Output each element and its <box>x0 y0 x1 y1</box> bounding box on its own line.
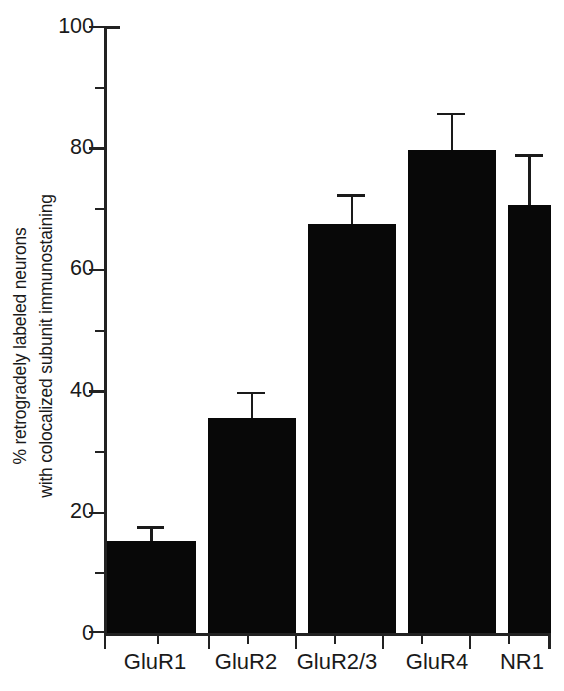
y-tick-label-20: 20 <box>34 501 94 523</box>
y-tick-label-40: 40 <box>34 380 94 402</box>
y-axis-title-line-1: % retrogradely labeled neurons <box>7 194 33 497</box>
y-tick-label-0: 0 <box>34 623 94 645</box>
x-label-nr1: NR1 <box>478 650 564 674</box>
y-tick-label-60: 60 <box>34 258 94 280</box>
y-tick-30 <box>95 451 104 453</box>
y-axis-top-cap <box>104 26 120 29</box>
y-tick-60 <box>89 269 104 271</box>
x-tick-boundary-3 <box>382 635 384 649</box>
bar-chart-figure: % retrogradely labeled neurons with colo… <box>0 0 564 691</box>
x-tick-boundary-1 <box>208 635 210 649</box>
x-label-gluR1: GluR1 <box>105 650 205 674</box>
y-tick-label-80: 80 <box>34 137 94 159</box>
y-tick-50 <box>95 330 104 332</box>
error-stem-gluR1 <box>150 528 153 541</box>
bar-gluR4 <box>408 150 496 633</box>
y-tick-100 <box>89 26 104 28</box>
x-tick-boundary-2 <box>295 635 297 649</box>
error-cap-gluR1 <box>137 526 164 529</box>
x-label-gluR2-3: GluR2/3 <box>283 650 391 674</box>
plot-area <box>104 26 551 633</box>
bar-nr1 <box>508 205 551 634</box>
x-tick-center-gluR2 <box>247 635 249 644</box>
error-cap-nr1 <box>515 154 543 157</box>
x-tick-center-gluR4 <box>421 635 423 644</box>
error-stem-gluR2 <box>251 394 254 418</box>
y-tick-0 <box>89 631 104 633</box>
x-label-gluR2: GluR2 <box>196 650 296 674</box>
x-tick-center-gluR1 <box>157 635 159 644</box>
y-tick-label-100: 100 <box>34 16 94 38</box>
y-tick-10 <box>95 572 104 574</box>
y-axis-title: % retrogradely labeled neurons with colo… <box>0 0 66 691</box>
error-stem-gluR4 <box>451 115 454 150</box>
y-axis-title-line-2: with colocalized subunit immunostaining <box>33 194 59 497</box>
y-tick-70 <box>95 208 104 210</box>
x-axis-line <box>104 633 551 636</box>
bar-gluR2 <box>208 418 296 633</box>
x-tick-boundary-0 <box>104 635 106 649</box>
error-stem-gluR2-3 <box>351 196 354 224</box>
x-tick-boundary-5 <box>548 635 550 649</box>
x-tick-center-gluR23 <box>334 635 336 644</box>
error-stem-nr1 <box>528 156 531 205</box>
x-tick-center-nr1 <box>508 635 510 644</box>
error-cap-gluR4 <box>437 113 465 116</box>
y-tick-80 <box>89 147 104 149</box>
y-tick-90 <box>95 87 104 89</box>
x-tick-boundary-4 <box>469 635 471 649</box>
x-label-gluR4: GluR4 <box>387 650 487 674</box>
bar-gluR1 <box>107 541 196 633</box>
error-cap-gluR2-3 <box>337 194 365 197</box>
y-tick-40 <box>89 390 104 392</box>
y-tick-20 <box>89 512 104 514</box>
error-cap-gluR2 <box>237 392 265 395</box>
bar-gluR2-3 <box>308 224 396 633</box>
